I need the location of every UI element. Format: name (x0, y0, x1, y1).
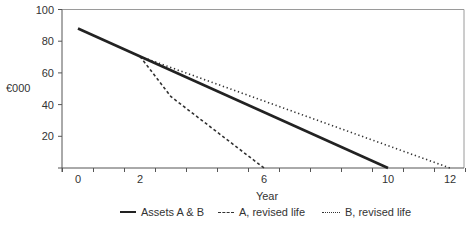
legend-label: A, revised life (239, 206, 305, 218)
x-axis-title: Year (256, 190, 279, 202)
dashed-line-swatch-icon (218, 212, 234, 213)
line-chart: 20406080100 0261012 €000 Year (0, 0, 473, 226)
legend-label: B, revised life (345, 206, 411, 218)
x-tick-label: 0 (75, 173, 81, 185)
series-line-dashed (140, 56, 264, 168)
x-axis: 0261012 (63, 168, 466, 185)
x-tick-label: 12 (444, 173, 456, 185)
legend-item-b-revised-life: B, revised life (322, 204, 411, 220)
series-line-solid (78, 29, 388, 169)
y-tick-label: 60 (42, 67, 54, 79)
x-tick-label: 6 (261, 173, 267, 185)
y-axis-title: €000 (6, 82, 30, 94)
y-tick-label: 20 (42, 130, 54, 142)
legend-item-a-revised-life: A, revised life (218, 204, 305, 220)
legend-item-assets-a-b: Assets A & B (120, 204, 204, 220)
series-line-dotted (140, 56, 450, 168)
solid-line-swatch-icon (120, 211, 136, 213)
legend: Assets A & B A, revised life B, revised … (0, 204, 473, 222)
x-tick-label: 10 (382, 173, 394, 185)
y-tick-label: 80 (42, 35, 54, 47)
dotted-line-swatch-icon (322, 212, 340, 213)
x-tick-label: 2 (137, 173, 143, 185)
legend-label: Assets A & B (141, 206, 204, 218)
y-tick-label: 100 (36, 4, 54, 16)
y-axis: 20406080100 (36, 4, 62, 143)
y-tick-label: 40 (42, 99, 54, 111)
series-lines (78, 29, 450, 169)
plot-frame (58, 10, 464, 173)
